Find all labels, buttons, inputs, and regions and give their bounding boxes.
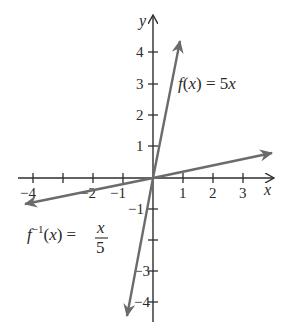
svg-text:f−1(x) =: f−1(x) = xyxy=(27,223,76,244)
x-tick-label-2: 2 xyxy=(209,185,217,201)
y-tick-label-neg1: −1 xyxy=(128,201,144,217)
fraction-denominator: 5 xyxy=(96,238,105,257)
x-tick-label-3: 3 xyxy=(239,185,247,201)
y-axis-label: y xyxy=(137,12,147,30)
y-tick-label-2: 2 xyxy=(136,107,144,123)
graph-canvas: −4 −2 −1 1 2 3 x 4 3 2 1 −1 −3 −4 y xyxy=(0,0,294,336)
f-inverse-equation-label: f−1(x) = x 5 xyxy=(27,218,108,257)
y-tick-label-4: 4 xyxy=(136,44,144,60)
y-axis: 4 3 2 1 −1 −3 −4 y xyxy=(128,12,158,322)
y-tick-label-1: 1 xyxy=(136,138,144,154)
y-tick-label-neg4: −4 xyxy=(134,294,150,310)
y-tick-label-3: 3 xyxy=(136,76,144,92)
f-equation-label: f(x) = 5x xyxy=(178,74,236,93)
x-tick-label-1: 1 xyxy=(179,185,187,201)
x-tick-label-neg4: −4 xyxy=(20,185,36,201)
fraction-numerator: x xyxy=(96,218,105,237)
x-axis-label: x xyxy=(263,181,271,198)
